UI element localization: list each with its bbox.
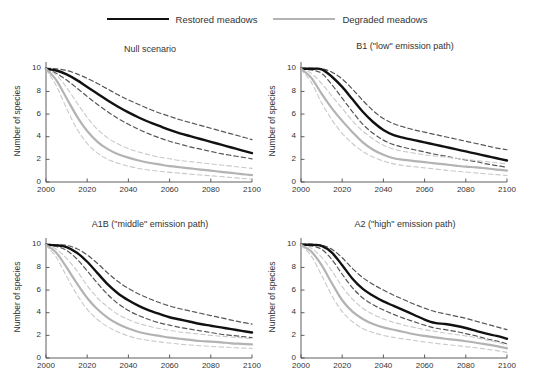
x-tick-label: 2000 xyxy=(285,361,317,370)
series-line xyxy=(301,244,507,330)
y-tick-label: 4 xyxy=(277,307,296,316)
y-tick-label: 10 xyxy=(22,63,41,72)
x-tick-label: 2000 xyxy=(30,185,62,194)
y-tick-label: 2 xyxy=(277,330,296,339)
x-tick-label: 2040 xyxy=(112,185,144,194)
y-axis-label: Number of species xyxy=(267,76,277,166)
x-tick-label: 2080 xyxy=(450,185,482,194)
y-tick-label: 6 xyxy=(22,285,41,294)
series-line xyxy=(301,69,507,171)
x-tick-label: 2060 xyxy=(154,361,186,370)
x-tick-label: 2000 xyxy=(30,361,62,370)
x-tick-label: 2100 xyxy=(491,185,523,194)
x-tick-label: 2100 xyxy=(236,185,268,194)
y-tick-label: 10 xyxy=(22,239,41,248)
series-line xyxy=(301,68,507,164)
x-tick-label: 2100 xyxy=(236,361,268,370)
series-line xyxy=(46,245,252,345)
y-axis-label: Number of species xyxy=(12,76,22,166)
y-tick-label: 8 xyxy=(22,262,41,271)
y-tick-label: 10 xyxy=(277,239,296,248)
x-tick-label: 2020 xyxy=(71,361,103,370)
y-tick-label: 6 xyxy=(277,109,296,118)
x-tick-label: 2080 xyxy=(195,185,227,194)
y-tick-label: 6 xyxy=(277,285,296,294)
y-tick-label: 2 xyxy=(22,154,41,163)
x-tick-label: 2020 xyxy=(71,185,103,194)
x-tick-label: 2060 xyxy=(409,361,441,370)
x-tick-label: 2040 xyxy=(367,361,399,370)
plot-panel-b1 xyxy=(301,62,507,182)
y-tick-label: 8 xyxy=(22,86,41,95)
x-tick-label: 2080 xyxy=(450,361,482,370)
y-tick-label: 4 xyxy=(22,307,41,316)
plot-panel-a2 xyxy=(301,238,507,358)
plot-panel-a1b xyxy=(46,238,252,358)
y-tick-label: 6 xyxy=(22,109,41,118)
series-line xyxy=(301,245,507,343)
x-tick-label: 2020 xyxy=(326,185,358,194)
y-tick-label: 10 xyxy=(277,63,296,72)
series-line xyxy=(301,69,507,161)
y-tick-label: 8 xyxy=(277,262,296,271)
series-line xyxy=(46,245,252,348)
y-tick-label: 2 xyxy=(277,154,296,163)
y-tick-label: 2 xyxy=(22,330,41,339)
y-tick-label: 4 xyxy=(277,131,296,140)
y-axis-label: Number of species xyxy=(12,252,22,342)
x-tick-label: 2000 xyxy=(285,185,317,194)
series-line xyxy=(46,245,252,337)
x-tick-label: 2080 xyxy=(195,361,227,370)
y-tick-label: 8 xyxy=(277,86,296,95)
y-axis-label: Number of species xyxy=(267,252,277,342)
x-tick-label: 2040 xyxy=(367,185,399,194)
y-tick-label: 4 xyxy=(22,131,41,140)
x-tick-label: 2060 xyxy=(409,185,441,194)
x-tick-label: 2060 xyxy=(154,185,186,194)
plot-panel-null xyxy=(46,62,252,182)
x-tick-label: 2100 xyxy=(491,361,523,370)
x-tick-label: 2020 xyxy=(326,361,358,370)
x-tick-label: 2040 xyxy=(112,361,144,370)
series-line xyxy=(46,69,252,153)
